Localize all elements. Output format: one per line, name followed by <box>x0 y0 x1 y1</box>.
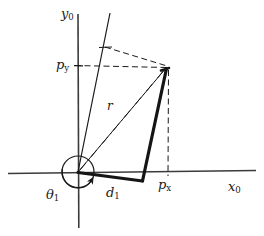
joint-angle-label: θ1 <box>46 188 59 203</box>
y-axis-label: y0 <box>61 7 74 22</box>
y-axis-line <box>78 14 79 228</box>
link1-axis-line <box>78 13 110 172</box>
py-projection-line <box>75 66 167 68</box>
link2-thick-line <box>143 69 167 182</box>
x-axis-line <box>8 171 256 174</box>
radius-label: r <box>107 100 113 112</box>
x-axis-label: x0 <box>228 180 241 195</box>
px-projection-line <box>168 70 169 176</box>
py-label: py <box>56 58 69 73</box>
px-label: px <box>158 178 171 193</box>
geometry-figure <box>0 0 264 236</box>
link1-thick-line <box>78 173 143 182</box>
end-effector-cap <box>161 68 169 71</box>
upper-dashed-line <box>105 47 167 66</box>
link-length-label: d1 <box>106 186 120 201</box>
diagram-canvas: y0 x0 py px r d1 θ1 <box>0 0 264 236</box>
